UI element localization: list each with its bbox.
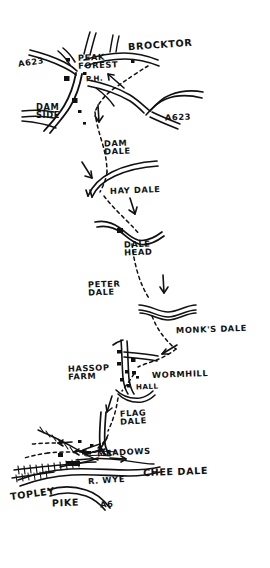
label-pike: PIKE xyxy=(52,498,79,509)
label-a6: A6 xyxy=(100,500,114,509)
label-flag-dale: FLAG DALE xyxy=(120,408,148,426)
label-hay-dale: HAY DALE xyxy=(110,185,161,195)
label-hall: HALL xyxy=(136,383,159,391)
label-a623-east: A623 xyxy=(165,113,191,122)
label-river-wye: R. WYE xyxy=(88,475,126,486)
label-dam-side: DAM SIDE xyxy=(36,103,60,120)
building-block xyxy=(78,110,82,113)
hand-drawn-route-map: A623 BROCKTOR PEAK FOREST P.H. DAM SIDE … xyxy=(0,0,270,568)
label-hassop-farm: HASSOP FARM xyxy=(68,363,110,381)
building-block xyxy=(83,122,86,125)
label-dam-dale: DAM DALE xyxy=(104,139,131,157)
building-block xyxy=(64,76,70,81)
map-background xyxy=(0,0,270,568)
building-block xyxy=(66,58,70,62)
label-wormhill: WORMHILL xyxy=(152,369,209,379)
label-chee-dale: CHEE DALE xyxy=(143,466,208,478)
label-peak-forest: PEAK FOREST xyxy=(78,52,119,70)
label-peter-dale: PETER DALE xyxy=(88,279,121,297)
map-drawing xyxy=(0,0,270,568)
building-dale-head xyxy=(117,228,123,233)
building-block xyxy=(72,98,78,103)
label-monks-dale: MONK'S DALE xyxy=(176,324,247,335)
building-block xyxy=(131,60,135,63)
label-public-house: P.H. xyxy=(86,75,103,83)
label-dale-head: DALE HEAD xyxy=(124,240,153,258)
